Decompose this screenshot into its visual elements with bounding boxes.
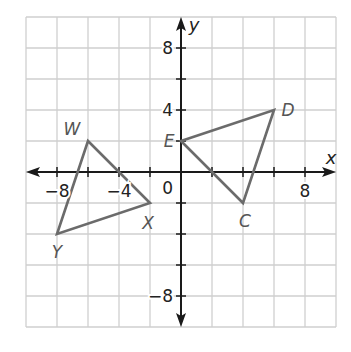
coordinate-plane: −8−4884−80xyWXYEDC	[0, 0, 351, 352]
x-tick-label: −4	[106, 181, 131, 201]
triangle-edc	[181, 110, 274, 203]
axes	[26, 17, 336, 327]
vertex-label-x: X	[141, 213, 154, 233]
y-tick-label: 8	[162, 38, 173, 58]
x-tick-label: 8	[300, 181, 311, 201]
y-tick-label: −8	[148, 286, 173, 306]
vertex-label-e: E	[164, 131, 175, 151]
triangle-wxy	[57, 141, 150, 234]
x-axis-label: x	[325, 147, 337, 168]
y-axis-label: y	[188, 14, 200, 35]
vertex-label-d: D	[281, 100, 294, 120]
vertex-label-c: C	[239, 211, 251, 231]
x-tick-label: −8	[44, 181, 69, 201]
vertex-label-y: Y	[52, 242, 64, 262]
vertex-label-w: W	[64, 119, 82, 139]
origin-label: 0	[162, 178, 173, 198]
y-tick-label: 4	[162, 100, 173, 120]
